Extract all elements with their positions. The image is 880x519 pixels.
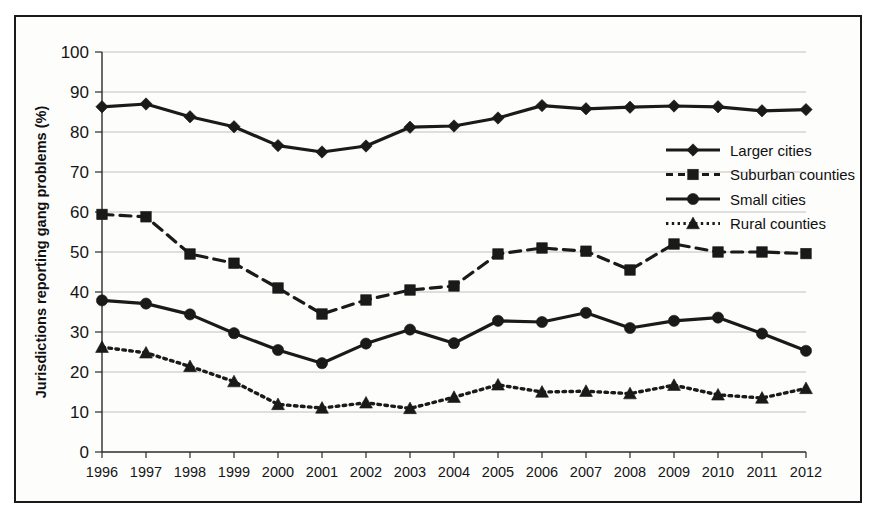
x-tick-label: 2008 [614, 464, 646, 480]
data-marker-circle [624, 322, 635, 333]
legend-label: Rural counties [730, 215, 826, 232]
x-tick-label: 1997 [130, 464, 162, 480]
y-tick-label: 90 [70, 83, 89, 102]
data-marker-diamond [184, 111, 196, 123]
data-marker-square [801, 248, 812, 259]
x-tick-label: 1998 [174, 464, 206, 480]
data-marker-diamond [668, 100, 680, 112]
data-marker-square [229, 258, 240, 269]
data-marker-diamond [360, 140, 372, 152]
data-marker-diamond [756, 105, 768, 117]
data-marker-square [581, 246, 592, 257]
legend-label: Larger cities [730, 142, 812, 159]
y-tick-label: 50 [70, 243, 89, 262]
legend-item-small-cities[interactable]: Small cities [666, 191, 806, 208]
data-marker-square [757, 247, 768, 258]
x-tick-label: 2009 [658, 464, 690, 480]
x-tick-label: 1996 [86, 464, 118, 480]
data-marker-diamond [448, 120, 460, 132]
x-tick-label: 2005 [482, 464, 514, 480]
legend-label: Small cities [730, 191, 806, 208]
chart-canvas: 0102030405060708090100199619971998199920… [16, 17, 864, 505]
data-marker-square [317, 309, 328, 320]
data-marker-circle [96, 295, 107, 306]
data-marker-circle [580, 307, 591, 318]
data-marker-circle [712, 312, 723, 323]
x-tick-label: 1999 [218, 464, 250, 480]
y-tick-label: 80 [70, 123, 89, 142]
x-tick-label: 2002 [350, 464, 382, 480]
data-marker-circle [756, 328, 767, 339]
data-marker-diamond [140, 98, 152, 110]
data-marker-triangle [800, 382, 813, 394]
y-tick-label: 40 [70, 283, 89, 302]
data-marker-circle [228, 328, 239, 339]
y-tick-label: 100 [61, 43, 89, 62]
x-tick-label: 2003 [394, 464, 426, 480]
x-axis-ticks: 1996199719981999200020012002200320042005… [86, 452, 822, 480]
y-axis-title: Jurisdictions reporting gang problems (%… [33, 106, 49, 399]
data-marker-square [713, 247, 724, 258]
data-marker-square [537, 243, 548, 254]
data-marker-square [361, 295, 372, 306]
data-marker-diamond [96, 101, 108, 113]
data-marker-diamond [536, 99, 548, 111]
data-marker-triangle [140, 346, 153, 358]
data-marker-diamond [624, 101, 636, 113]
data-marker-square [625, 265, 636, 276]
x-tick-label: 2006 [526, 464, 558, 480]
x-tick-label: 2000 [262, 464, 294, 480]
data-marker-diamond [492, 112, 504, 124]
legend-label: Suburban counties [730, 166, 855, 183]
data-marker-circle [360, 338, 371, 349]
series-suburban-counties [97, 209, 812, 319]
figure-frame: 0102030405060708090100199619971998199920… [14, 15, 862, 503]
y-tick-label: 10 [70, 403, 89, 422]
y-tick-label: 30 [70, 323, 89, 342]
data-marker-square [141, 212, 152, 223]
data-marker-square [449, 281, 460, 292]
data-marker-diamond [404, 121, 416, 133]
legend-item-larger-cities[interactable]: Larger cities [666, 142, 812, 159]
data-marker-diamond [687, 144, 699, 156]
data-marker-circle [687, 193, 698, 204]
data-marker-circle [272, 344, 283, 355]
x-tick-label: 2007 [570, 464, 602, 480]
data-marker-square [688, 169, 699, 180]
data-marker-diamond [316, 146, 328, 158]
data-marker-diamond [272, 139, 284, 151]
data-marker-circle [184, 309, 195, 320]
x-tick-label: 2010 [702, 464, 734, 480]
data-marker-circle [668, 315, 679, 326]
data-marker-circle [536, 316, 547, 327]
data-marker-square [669, 239, 680, 250]
data-marker-diamond [800, 103, 812, 115]
series-rural-counties [96, 341, 813, 414]
data-marker-circle [800, 345, 811, 356]
data-marker-diamond [580, 103, 592, 115]
data-marker-circle [140, 298, 151, 309]
data-marker-circle [448, 338, 459, 349]
chart-legend: Larger citiesSuburban countiesSmall citi… [666, 142, 855, 233]
data-marker-circle [316, 358, 327, 369]
legend-item-suburban-counties[interactable]: Suburban counties [666, 166, 855, 183]
y-tick-label: 70 [70, 163, 89, 182]
data-marker-triangle [448, 391, 461, 403]
x-tick-label: 2004 [438, 464, 470, 480]
data-marker-square [185, 249, 196, 260]
x-tick-label: 2011 [746, 464, 777, 480]
data-marker-square [273, 283, 284, 294]
data-marker-circle [492, 315, 503, 326]
data-marker-circle [404, 324, 415, 335]
data-marker-square [97, 209, 108, 220]
legend-item-rural-counties[interactable]: Rural counties [666, 215, 826, 232]
x-tick-label: 2012 [790, 464, 822, 480]
data-marker-square [493, 249, 504, 260]
y-tick-label: 0 [80, 443, 89, 462]
y-tick-label: 60 [70, 203, 89, 222]
data-marker-square [405, 285, 416, 296]
data-marker-diamond [712, 101, 724, 113]
line-chart: 0102030405060708090100199619971998199920… [16, 17, 860, 501]
data-marker-triangle [687, 217, 700, 229]
series-path [102, 214, 806, 314]
